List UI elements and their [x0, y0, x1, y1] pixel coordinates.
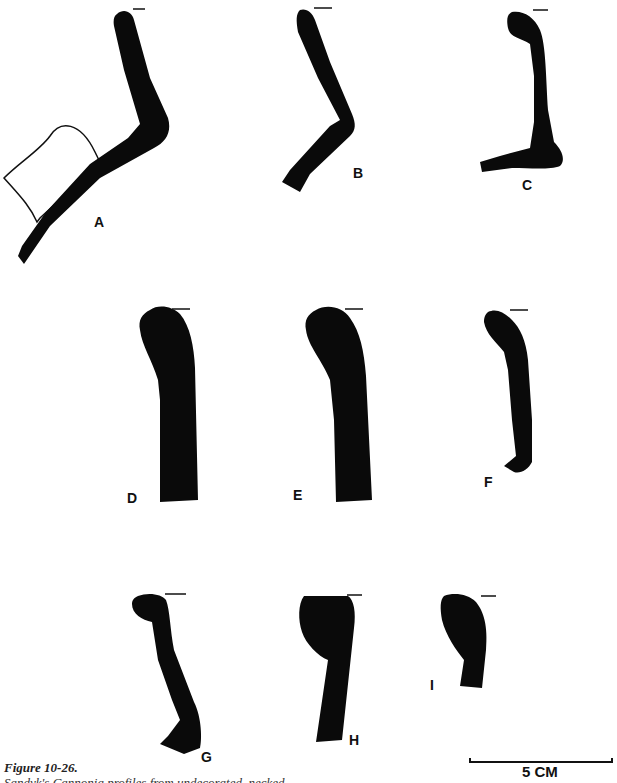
label-b: B [353, 165, 363, 181]
figure-title: Figure 10-26. [4, 760, 78, 776]
profile-f [484, 310, 532, 473]
profile-g [132, 594, 201, 754]
scale-bar-label: 5 CM [522, 763, 558, 780]
profile-d [139, 307, 198, 502]
profile-h [299, 595, 362, 742]
label-h: H [349, 732, 359, 748]
label-g: G [201, 749, 212, 765]
label-i: I [430, 677, 434, 693]
profile-a [4, 9, 169, 264]
label-d: D [127, 490, 137, 506]
profile-e [305, 307, 372, 502]
label-f: F [484, 474, 493, 490]
profile-b [282, 8, 355, 192]
label-a: A [94, 214, 104, 230]
profile-i [441, 594, 496, 688]
label-e: E [293, 487, 302, 503]
label-c: C [522, 177, 532, 193]
figure-caption: Sandyk's Cannonia profiles from undecora… [4, 775, 285, 783]
profile-c [480, 10, 563, 172]
